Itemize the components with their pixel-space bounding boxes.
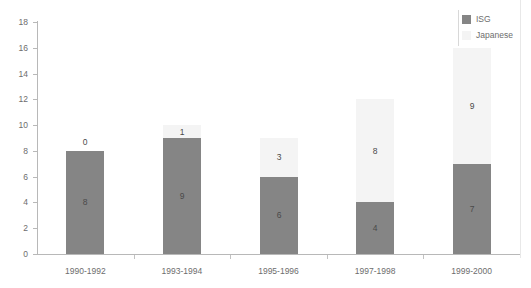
y-axis-tick-mark [33,125,37,126]
legend-item[interactable]: ISG [462,13,528,27]
y-axis-tick-label: 8 [4,147,28,155]
x-axis-tick-mark [327,255,328,259]
y-axis-tick-mark [33,177,37,178]
legend-item[interactable]: Japanese [462,29,528,43]
y-axis-tick-label: 4 [4,198,28,206]
y-axis-tick-label: 18 [4,18,28,26]
legend-item-label: ISG [476,14,491,25]
y-axis-tick-label: 0 [4,250,28,258]
y-axis-tick-mark [33,22,37,23]
y-axis-tick-mark [33,254,37,255]
bar-value-label-isg: 6 [260,210,298,220]
bar-value-label-japanese: 1 [163,127,201,137]
y-axis-tick-label: 12 [4,95,28,103]
bar-value-label-isg: 8 [66,197,104,207]
bar-segment-isg: 8 [66,151,104,254]
y-axis-tick-mark [33,228,37,229]
x-axis-category-label: 1993-1994 [137,266,227,276]
bar-group: 63 [260,22,298,254]
bar-segment-isg: 4 [356,202,394,254]
bar-group: 80 [66,22,104,254]
x-axis-line [37,254,521,255]
bar-value-label-japanese: 9 [453,101,491,111]
bar-group: 48 [356,22,394,254]
bar-segment-japanese: 3 [260,138,298,177]
bar-value-label-japanese: 0 [66,137,104,147]
stacked-bar-chart: 024681012141618 1990-19921993-19941995-1… [0,0,531,288]
bar-segment-japanese: 1 [163,125,201,138]
bar-value-label-japanese: 3 [260,152,298,162]
x-axis-tick-mark [134,255,135,259]
y-axis-tick-label: 10 [4,121,28,129]
bar-group: 91 [163,22,201,254]
bar-group: 79 [453,22,491,254]
x-axis-category-label: 1997-1998 [330,266,420,276]
bar-segment-japanese: 8 [356,99,394,202]
legend-color-swatch-icon [462,15,471,24]
bar-segment-isg: 6 [260,177,298,254]
y-axis-tick-mark [33,99,37,100]
y-axis-tick-mark [33,202,37,203]
y-axis-tick-label: 6 [4,173,28,181]
x-axis-category-label: 1995-1996 [234,266,324,276]
x-axis-category-label: 1990-1992 [40,266,130,276]
bar-segment-japanese: 9 [453,48,491,164]
chart-legend: ISGJapanese [462,13,528,45]
x-axis-tick-mark [423,255,424,259]
legend-divider [458,10,459,46]
y-axis-tick-mark [33,151,37,152]
y-axis-tick-mark [33,74,37,75]
legend-item-label: Japanese [476,30,513,41]
legend-color-swatch-icon [462,31,471,40]
y-axis-line [37,21,38,255]
y-axis-tick-label: 14 [4,70,28,78]
y-axis-tick-mark [33,48,37,49]
bar-segment-isg: 7 [453,164,491,254]
bar-value-label-isg: 7 [453,204,491,214]
y-axis-tick-label: 2 [4,224,28,232]
bar-value-label-isg: 4 [356,223,394,233]
bar-value-label-japanese: 8 [356,146,394,156]
y-axis-tick-label: 16 [4,44,28,52]
x-axis-tick-mark [230,255,231,259]
x-axis-category-label: 1999-2000 [427,266,517,276]
bar-value-label-isg: 9 [163,191,201,201]
bar-segment-isg: 9 [163,138,201,254]
